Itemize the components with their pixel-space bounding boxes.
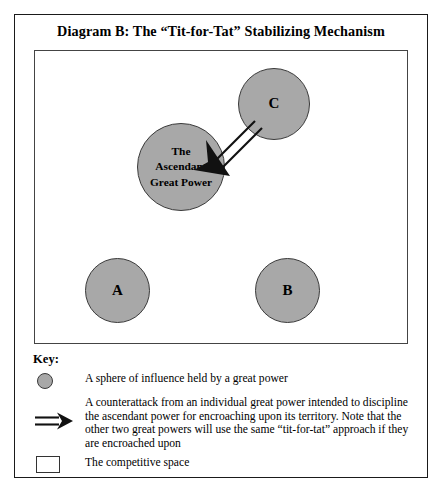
legend-arrow-icon-cell bbox=[33, 396, 79, 454]
legend-sphere-text: A sphere of influence held by a great po… bbox=[85, 372, 415, 386]
key-heading: Key: bbox=[33, 352, 59, 367]
sphere-b-label: B bbox=[282, 282, 292, 300]
sphere-c-label: C bbox=[269, 95, 280, 113]
figure-root: Diagram B: The “Tit-for-Tat” Stabilizing… bbox=[0, 0, 445, 491]
sphere-c: C bbox=[238, 68, 310, 140]
sphere-ascendant-label: TheAscendantGreat Power bbox=[146, 144, 216, 189]
sphere-a: A bbox=[85, 258, 150, 323]
legend-item-competitive-space: The competitive space bbox=[33, 456, 418, 476]
legend-square-icon-cell bbox=[33, 456, 79, 476]
legend-sphere-icon-cell bbox=[33, 372, 79, 392]
legend-arrow-text: A counterattack from an individual great… bbox=[85, 396, 415, 450]
grey-circle-icon bbox=[37, 373, 53, 389]
sphere-ascendant-great-power: TheAscendantGreat Power bbox=[137, 123, 225, 211]
figure-title: Diagram B: The “Tit-for-Tat” Stabilizing… bbox=[14, 22, 428, 40]
double-line-arrow-icon bbox=[33, 412, 77, 430]
legend-competitive-space-text: The competitive space bbox=[85, 456, 415, 470]
white-square-icon bbox=[36, 456, 60, 473]
sphere-a-label: A bbox=[112, 282, 123, 300]
legend-item-sphere: A sphere of influence held by a great po… bbox=[33, 372, 418, 392]
legend-item-arrow: A counterattack from an individual great… bbox=[33, 396, 418, 454]
sphere-b: B bbox=[255, 258, 320, 323]
